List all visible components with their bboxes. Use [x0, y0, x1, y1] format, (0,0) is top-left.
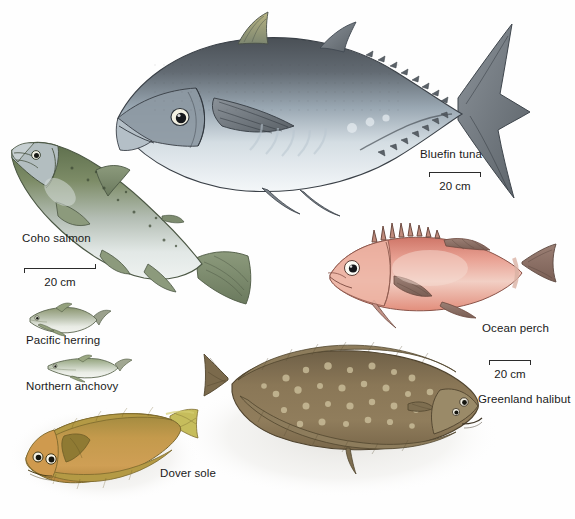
scale-bar-line — [24, 268, 96, 275]
scale-bar-tick-left — [489, 360, 490, 365]
fish-illustration-plate: Bluefin tuna Coho salmon Pacific herring… — [0, 0, 575, 519]
species-label-northern-anchovy: Northern anchovy — [26, 380, 118, 392]
scale-bar-tick-right — [95, 264, 96, 269]
species-label-dover-sole: Dover sole — [160, 467, 216, 479]
fish-drawings — [0, 0, 575, 519]
scale-bar-caption: 20 cm — [24, 276, 96, 288]
ocean-perch-drawing — [328, 223, 556, 328]
species-label-greenland-halibut: Greenland halibut — [478, 393, 571, 405]
scale-bar-rule — [24, 268, 96, 269]
scale-bar-tick-right — [480, 172, 481, 177]
scale-bar-line — [429, 172, 481, 179]
species-label-bluefin-tuna: Bluefin tuna — [420, 148, 482, 160]
scale-bar-tick-right — [530, 360, 531, 365]
species-label-coho-salmon: Coho salmon — [22, 232, 91, 244]
scale-bar-caption: 20 cm — [489, 368, 531, 380]
pacific-herring-drawing — [30, 303, 111, 336]
scale-bar-tick-left — [429, 172, 430, 177]
dover-sole-drawing — [8, 407, 200, 503]
greenland-halibut-drawing — [180, 342, 500, 497]
scale-bar-line — [489, 360, 531, 367]
species-label-pacific-herring: Pacific herring — [26, 334, 100, 346]
species-label-ocean-perch: Ocean perch — [482, 322, 549, 334]
scale-bar-rule — [489, 360, 531, 361]
scale-bar-coho-salmon: 20 cm — [24, 268, 96, 288]
northern-anchovy-drawing — [48, 355, 132, 382]
scale-bar-greenland-halibut: 20 cm — [489, 360, 531, 380]
scale-bar-caption: 20 cm — [429, 180, 481, 192]
scale-bar-tick-left — [24, 268, 25, 273]
scale-bar-rule — [429, 172, 481, 173]
scale-bar-bluefin-tuna: 20 cm — [429, 172, 481, 192]
